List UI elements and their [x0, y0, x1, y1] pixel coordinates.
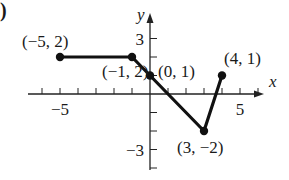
- x-tick-label: 5: [236, 100, 245, 119]
- data-point: [218, 71, 226, 79]
- x-axis-arrow-icon: [254, 91, 264, 98]
- x-tick-label: −5: [51, 100, 69, 119]
- y-axis-label: y: [135, 5, 145, 24]
- panel-label: ): [0, 0, 7, 22]
- y-axis-arrow-icon: [147, 13, 154, 23]
- chart: ) xy −553−3 (−5, 2)(−1, 2)(0, 1)(3, −2)(…: [0, 0, 289, 180]
- data-point: [128, 53, 136, 61]
- y-tick-label: 3: [136, 30, 145, 49]
- y-tick-label: −3: [126, 141, 144, 160]
- point-label: (−1, 2): [102, 62, 148, 81]
- point-label: (−5, 2): [22, 32, 68, 51]
- x-axis-label: x: [268, 72, 277, 91]
- axes: xy: [28, 5, 277, 170]
- svg-text:): ): [0, 0, 7, 22]
- point-label: (4, 1): [224, 49, 261, 68]
- data-point: [200, 127, 208, 135]
- data-point: [56, 53, 64, 61]
- point-label: (3, −2): [177, 138, 223, 157]
- point-label: (0, 1): [158, 62, 195, 81]
